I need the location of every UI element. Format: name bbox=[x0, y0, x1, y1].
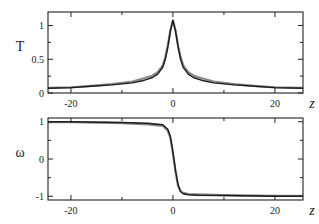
panel-omega: -20020-101ωz bbox=[15, 116, 315, 218]
y-tick-label: 0 bbox=[39, 154, 44, 165]
series-line bbox=[48, 122, 303, 197]
y-tick-label: 1 bbox=[39, 20, 44, 31]
plot-frame bbox=[48, 118, 303, 200]
series-line bbox=[48, 122, 303, 196]
x-axis-label: z bbox=[308, 96, 315, 111]
y-axis-label: T bbox=[16, 39, 25, 54]
series-line bbox=[48, 20, 303, 88]
plot-frame bbox=[48, 12, 303, 93]
x-tick-label: -20 bbox=[64, 205, 77, 216]
y-tick-label: -1 bbox=[36, 191, 44, 202]
y-tick-label: 1 bbox=[39, 116, 44, 127]
x-tick-label: 20 bbox=[270, 98, 280, 109]
x-axis-label: z bbox=[308, 203, 315, 218]
y-axis-label: ω bbox=[15, 145, 24, 160]
x-tick-label: 0 bbox=[170, 98, 175, 109]
x-tick-label: -20 bbox=[64, 98, 77, 109]
panel-temperature: -2002000.51Tz bbox=[16, 12, 316, 111]
x-tick-label: 0 bbox=[170, 205, 175, 216]
x-tick-label: 20 bbox=[270, 205, 280, 216]
y-tick-label: 0.5 bbox=[32, 54, 45, 65]
chart-figure: -2002000.51Tz -20020-101ωz bbox=[0, 0, 319, 224]
y-tick-label: 0 bbox=[39, 88, 44, 99]
